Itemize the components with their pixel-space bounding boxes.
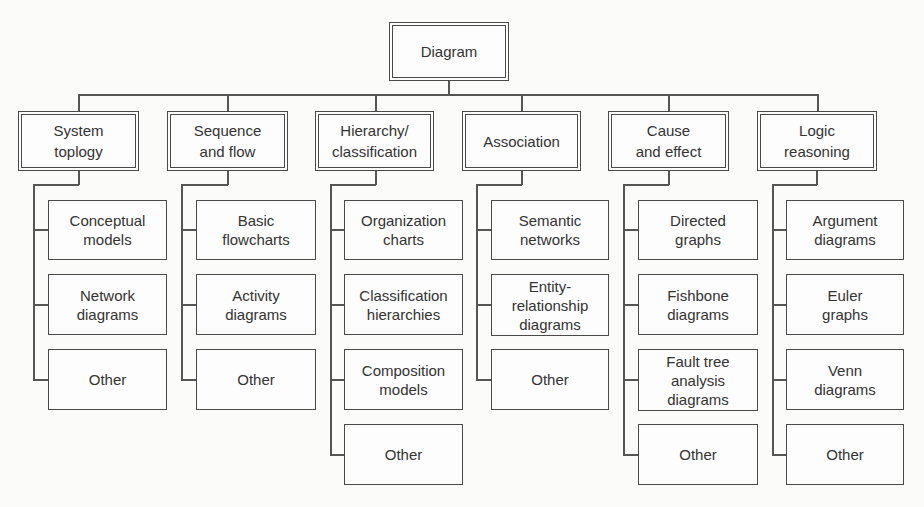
category-connector [668,94,670,112]
leaf-node: Euler graphs [786,274,904,335]
leaf-tick [623,304,638,306]
leaf-node: Other [491,349,609,410]
leaf-tick [33,229,48,231]
leaf-node: Semantic networks [491,200,609,260]
category-connector [78,94,80,112]
leaf-tick [330,379,344,381]
leaf-node: Organization charts [344,200,463,260]
branch-spine [476,184,478,380]
category-node-logic-reasoning: Logic reasoning [757,111,877,171]
leaf-node: Other [48,349,167,410]
leaf-tick [476,304,491,306]
branch-stem [668,171,670,185]
branch-elbow [330,184,376,186]
category-label: Sequence and flow [170,114,285,168]
leaf-node: Venn diagrams [786,349,904,410]
leaf-tick [623,454,638,456]
leaf-node: Other [786,424,904,485]
category-node-sequence-and-flow: Sequence and flow [167,111,288,171]
leaf-tick [33,379,48,381]
category-label: Cause and effect [611,114,726,168]
root-node: Diagram [389,22,509,81]
leaf-tick [33,304,48,306]
category-node-hierarchy-classification: Hierarchy/ classification [315,111,434,171]
category-label: Logic reasoning [760,114,874,168]
leaf-tick [181,379,196,381]
leaf-node: Directed graphs [638,200,758,260]
leaf-tick [181,229,196,231]
branch-stem [227,171,229,185]
leaf-node: Argument diagrams [786,200,904,260]
leaf-tick [330,229,344,231]
leaf-node: Network diagrams [48,274,167,335]
branch-spine [772,184,774,455]
category-node-association: Association [462,111,581,171]
leaf-node: Other [196,349,316,410]
leaf-node: Conceptual models [48,200,167,260]
leaf-node: Fault tree analysis diagrams [638,349,758,411]
branch-spine [181,184,183,380]
branch-stem [521,171,523,185]
leaf-node: Other [638,424,758,485]
root-connector [448,81,450,95]
leaf-tick [330,304,344,306]
category-connector [521,94,523,112]
category-node-cause-and-effect: Cause and effect [608,111,729,171]
leaf-node: Other [344,424,463,485]
category-label: System toplogy [21,114,136,168]
leaf-node: Activity diagrams [196,274,316,335]
category-node-system-topology: System toplogy [18,111,139,171]
leaf-node: Composition models [344,349,463,410]
leaf-tick [623,229,638,231]
category-connector [375,94,377,112]
leaf-tick [772,454,786,456]
category-connector [227,94,229,112]
diagram-taxonomy-tree: Diagram System toplogy Conceptual models… [0,0,924,507]
branch-elbow [181,184,228,186]
leaf-node: Classification hierarchies [344,274,463,335]
root-node-label: Diagram [392,25,506,78]
branch-elbow [772,184,817,186]
category-label: Hierarchy/ classification [318,114,431,168]
branch-stem [816,171,818,185]
leaf-tick [476,229,491,231]
leaf-tick [772,229,786,231]
leaf-tick [476,379,491,381]
branch-elbow [623,184,669,186]
leaf-node: Entity- relationship diagrams [491,274,609,336]
leaf-tick [330,454,344,456]
branch-spine [33,184,35,380]
leaf-tick [772,379,786,381]
branch-elbow [33,184,79,186]
leaf-node: Basic flowcharts [196,200,316,260]
category-bus-line [78,94,819,96]
leaf-tick [623,379,638,381]
leaf-tick [181,304,196,306]
branch-spine [623,184,625,455]
category-connector [817,94,819,112]
branch-stem [78,171,80,185]
branch-spine [330,184,332,455]
leaf-node: Fishbone diagrams [638,274,758,335]
category-label: Association [465,114,578,168]
branch-elbow [476,184,522,186]
leaf-tick [772,304,786,306]
branch-stem [375,171,377,185]
